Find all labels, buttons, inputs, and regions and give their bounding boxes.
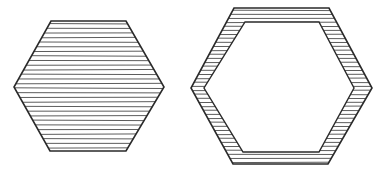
solid-hexagon-hatching	[12, 23, 166, 148]
hatch-line	[189, 50, 374, 51]
hatch-line	[12, 88, 166, 89]
hatch-line	[189, 94, 374, 95]
hatch-line	[189, 10, 374, 11]
hatch-line	[189, 122, 374, 123]
hatch-line	[12, 120, 166, 121]
solid-hatched-hexagon	[12, 21, 166, 151]
hexagon-diagram	[0, 0, 390, 173]
hollow-hatched-hexagon	[189, 8, 374, 164]
hatch-line	[12, 69, 166, 70]
hatch-line	[12, 37, 166, 38]
hatch-line	[12, 56, 166, 57]
hatch-line	[189, 78, 374, 79]
hatch-line	[189, 106, 374, 107]
hollow-hexagon-hatching	[189, 10, 374, 163]
hatch-line	[12, 23, 166, 24]
hatch-line	[189, 150, 374, 151]
hollow-hexagon-inner-outline	[204, 22, 354, 152]
hollow-hexagon-outer-outline	[191, 8, 372, 164]
hatch-line	[189, 162, 374, 163]
solid-hexagon-outline	[14, 21, 164, 151]
hatch-line	[12, 134, 166, 135]
hatch-line	[12, 102, 166, 103]
